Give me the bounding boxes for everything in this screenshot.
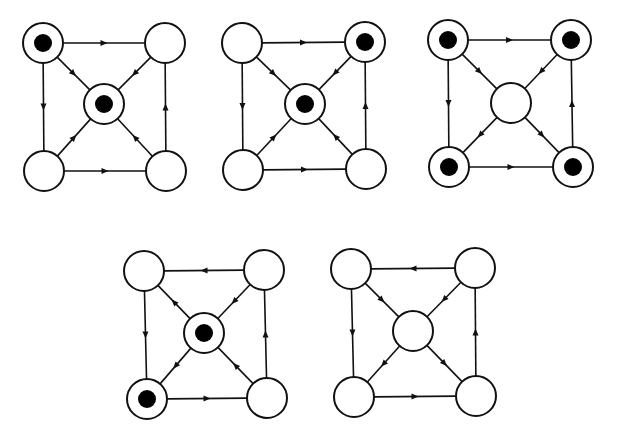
arrowhead-icon (142, 331, 148, 338)
arrowhead-icon (102, 168, 109, 174)
node-circle-icon (247, 378, 287, 418)
edge-TL-to-TR (468, 37, 551, 43)
node-circle-icon (24, 151, 64, 191)
filled-dot-icon (138, 390, 156, 408)
arrowhead-icon (569, 100, 575, 107)
edge-C-to-BR (427, 345, 462, 381)
node-TL (23, 23, 63, 63)
node-TL (331, 249, 371, 289)
edge-BR-to-C (118, 119, 153, 157)
node-BR (456, 376, 496, 416)
edge-BL-to-BR (64, 168, 146, 174)
arrowhead-icon (349, 329, 355, 336)
arrowhead-icon (506, 37, 513, 43)
node-circle-icon (124, 251, 164, 291)
node-TR (145, 23, 185, 63)
node-circle-icon (222, 23, 262, 63)
edge-C-to-BL (160, 348, 191, 384)
filled-dot-icon (440, 158, 458, 176)
edge-TL-to-C (462, 54, 497, 89)
edge-TL-to-BL (349, 289, 355, 377)
arrowhead-icon (101, 40, 108, 46)
diagram-3 (428, 20, 593, 187)
edge-BR-to-C (319, 119, 353, 155)
node-BL (24, 151, 64, 191)
node-circle-icon (244, 250, 284, 290)
edge-TL-to-BL (142, 291, 148, 379)
filled-dot-icon (296, 95, 314, 113)
node-TL (222, 23, 262, 63)
edge-TL-to-C (256, 57, 290, 90)
arrowhead-icon (203, 396, 210, 402)
node-TL (428, 20, 468, 60)
edge-C-to-BR (525, 117, 559, 152)
arrowhead-icon (300, 40, 307, 46)
edge-TL-to-BL (445, 60, 451, 147)
edge-TR-to-C (319, 56, 351, 89)
edge-BL-to-BR (263, 167, 346, 173)
edge-TL-to-TR (262, 40, 345, 46)
edge-BR-to-TR (569, 60, 575, 147)
diagram-5 (331, 248, 496, 417)
diagram-1 (23, 23, 186, 191)
edge-BL-to-C (257, 119, 292, 156)
edge-C-to-BL (463, 117, 497, 152)
edge-C-to-TL (158, 285, 190, 318)
node-BR (146, 151, 186, 191)
arrowhead-icon (239, 103, 245, 110)
diagram-4 (124, 250, 287, 419)
node-C (491, 83, 531, 123)
diagram-2 (222, 22, 386, 190)
arrowhead-icon (473, 329, 479, 336)
arrowhead-icon (163, 104, 169, 111)
node-TR (244, 250, 284, 290)
arrowhead-icon (40, 103, 46, 110)
filled-dot-icon (195, 324, 213, 342)
edge-TR-to-C (525, 54, 557, 88)
edge-BR-to-TR (163, 63, 169, 151)
edge-BL-to-C (57, 119, 90, 156)
filled-dot-icon (439, 31, 457, 49)
node-BL (334, 377, 374, 417)
edge-BR-to-TR (363, 62, 369, 149)
node-TR (455, 248, 495, 288)
node-BL (127, 379, 167, 419)
node-circle-icon (346, 149, 386, 189)
node-circle-icon (393, 311, 433, 351)
node-BL (223, 150, 263, 190)
arrowhead-icon (445, 100, 451, 107)
node-TR (345, 22, 385, 62)
edge-TR-to-C (427, 282, 461, 316)
edge-TL-to-C (365, 283, 399, 317)
edge-BR-to-TR (473, 288, 479, 376)
node-circle-icon (223, 150, 263, 190)
node-TL (124, 251, 164, 291)
node-BR (346, 149, 386, 189)
node-circle-icon (146, 151, 186, 191)
arrowhead-icon (508, 164, 515, 170)
edge-TR-to-TL (371, 265, 455, 271)
node-circle-icon (455, 248, 495, 288)
node-circle-icon (491, 83, 531, 123)
arrowhead-icon (411, 394, 418, 400)
edge-BL-to-BR (374, 394, 456, 400)
edge-C-to-BL (367, 346, 399, 382)
node-TR (551, 20, 591, 60)
node-BL (429, 147, 469, 187)
node-circle-icon (456, 376, 496, 416)
node-C (184, 313, 224, 353)
node-circle-icon (145, 23, 185, 63)
arrowhead-icon (201, 267, 208, 273)
arrowhead-icon (301, 167, 308, 173)
arrowhead-icon (410, 265, 417, 271)
filled-dot-icon (34, 34, 52, 52)
node-C (84, 84, 124, 124)
edge-TR-to-TL (164, 267, 244, 273)
node-BR (247, 378, 287, 418)
edge-TL-to-C (57, 57, 90, 90)
edge-BL-to-BR (167, 396, 247, 402)
arrowhead-icon (263, 331, 269, 338)
edge-BR-to-TR (263, 290, 269, 378)
edge-TL-to-BL (40, 63, 46, 151)
node-C (393, 311, 433, 351)
